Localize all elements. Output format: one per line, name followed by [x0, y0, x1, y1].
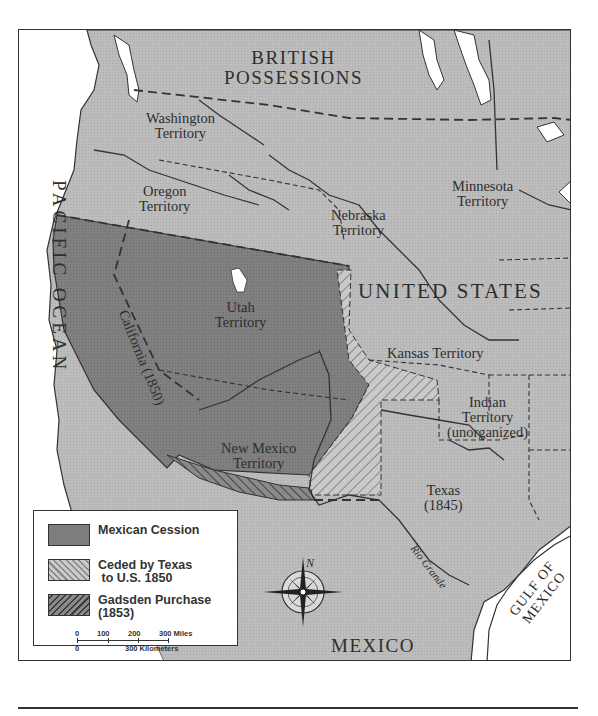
- scale-bar: 0 100 200 300 Miles 0 300 Kilometers: [75, 629, 245, 657]
- swatch-ceded-by-texas: [48, 559, 90, 581]
- label-kansas-territory: Kansas Territory: [387, 346, 484, 361]
- label-utah-territory: Utah Territory: [215, 300, 266, 330]
- label-minnesota-territory: Minnesota Territory: [452, 179, 513, 209]
- swatch-mexican-cession: [48, 524, 90, 546]
- label-new-mexico-territory: New Mexico Territory: [221, 441, 296, 471]
- label-united-states: UNITED STATES: [358, 280, 543, 302]
- legend-label: Ceded by Texas to U.S. 1850: [98, 559, 192, 585]
- scale-tick-label: 0: [75, 629, 79, 638]
- map-legend: Mexican Cession Ceded by Texas to U.S. 1…: [33, 510, 238, 646]
- scale-line: [77, 640, 169, 641]
- label-nebraska-territory: Nebraska Territory: [331, 208, 386, 238]
- bottom-rule: [18, 707, 578, 709]
- label-indian-territory: Indian Territory (unorganized): [447, 395, 528, 441]
- scale-tick-label: 300 Kilometers: [125, 644, 178, 653]
- label-pacific-ocean: PACIFIC OCEAN: [49, 180, 69, 373]
- compass-north-label: N: [306, 557, 314, 570]
- label-texas: Texas (1845): [424, 483, 463, 513]
- label-oregon-territory: Oregon Territory: [139, 184, 190, 214]
- label-washington-territory: Washington Territory: [146, 111, 215, 141]
- legend-label: Gadsden Purchase(1853): [98, 594, 211, 620]
- scale-tick-label: 300 Miles: [159, 629, 192, 638]
- legend-label: Mexican Cession: [98, 524, 199, 537]
- legend-item-ceded-by-texas: Ceded by Texas to U.S. 1850: [48, 559, 192, 585]
- label-british-possessions: BRITISH POSSESSIONS: [224, 48, 363, 88]
- legend-item-mexican-cession: Mexican Cession: [48, 524, 199, 546]
- scale-tick-label: 100: [97, 629, 110, 638]
- scale-tick-label: 0: [75, 644, 79, 653]
- label-mexico: MEXICO: [331, 636, 415, 656]
- scale-tick-label: 200: [128, 629, 141, 638]
- swatch-gadsden-purchase: [48, 594, 90, 616]
- legend-item-gadsden-purchase: Gadsden Purchase(1853): [48, 594, 211, 620]
